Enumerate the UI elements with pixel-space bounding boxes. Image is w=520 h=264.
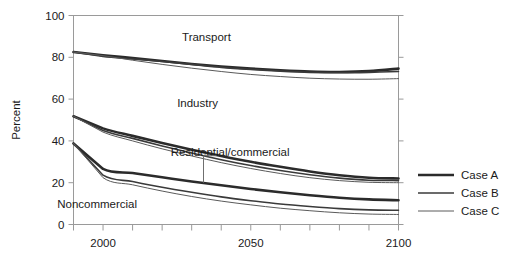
chart-legend: Case ACase BCase C: [418, 169, 499, 217]
annotation-industry: Industry: [177, 97, 218, 109]
annotation-residential-commercial: Residential/commercial: [171, 146, 290, 158]
x-tick-label: 2000: [90, 237, 116, 249]
y-tick-label: 80: [52, 51, 65, 63]
legend-label-case-c: Case C: [461, 205, 499, 217]
y-tick-label: 100: [45, 10, 64, 22]
annotation-transport: Transport: [182, 31, 232, 43]
y-axis-title: Percent: [10, 99, 22, 139]
y-tick-label: 20: [52, 177, 65, 189]
annotation-noncommercial: Noncommercial: [57, 198, 137, 210]
legend-label-case-b: Case B: [461, 187, 499, 199]
y-tick-label: 0: [58, 219, 64, 231]
x-tick-label: 2050: [238, 237, 264, 249]
chart-axes: 020406080100200020502100Percent: [10, 10, 411, 249]
series-line-transport-case-b: [74, 52, 399, 73]
legend-label-case-a: Case A: [461, 169, 498, 181]
chart-svg: 020406080100200020502100Percent Transpor…: [0, 0, 520, 264]
plot-frame: [74, 16, 399, 225]
chart-series: [74, 52, 399, 214]
chart-annotations: TransportIndustryResidential/commercialN…: [57, 31, 289, 210]
y-tick-label: 40: [52, 135, 65, 147]
chart-figure: 020406080100200020502100Percent Transpor…: [0, 0, 520, 264]
x-tick-label: 2100: [386, 237, 412, 249]
y-tick-label: 60: [52, 93, 65, 105]
